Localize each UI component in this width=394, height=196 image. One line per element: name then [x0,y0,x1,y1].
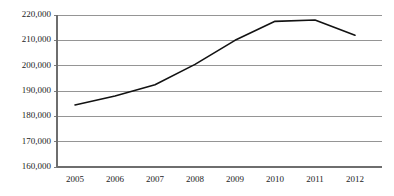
line-chart: 160,000170,000180,000190,000200,000210,0… [0,0,394,196]
x-axis-tick-label: 2010 [266,174,285,184]
y-axis-tick-label: 220,000 [22,9,52,19]
x-axis-tick-label: 2012 [346,174,364,184]
y-axis-tick-label: 160,000 [22,161,52,171]
y-axis-tick-label: 210,000 [22,34,52,44]
x-axis-tick-label: 2007 [146,174,165,184]
x-axis-tick-label: 2008 [186,174,205,184]
chart-canvas: 160,000170,000180,000190,000200,000210,0… [0,0,394,196]
data-series-line-0 [75,20,355,105]
y-axis-tick-label: 170,000 [22,136,52,146]
x-axis-labels: 20052006200720082009201020112012 [66,174,364,184]
x-axis-tick-label: 2009 [226,174,245,184]
y-axis-tick-label: 180,000 [22,110,52,120]
data-series-group [75,20,355,105]
x-axis-tick-label: 2011 [306,174,324,184]
gridlines-group [57,15,382,167]
y-axis-tick-label: 190,000 [22,85,52,95]
x-axis-tick-label: 2005 [66,174,85,184]
y-axis-labels: 160,000170,000180,000190,000200,000210,0… [22,9,52,171]
y-axis-tick-label: 200,000 [22,60,52,70]
x-axis-tick-label: 2006 [106,174,125,184]
